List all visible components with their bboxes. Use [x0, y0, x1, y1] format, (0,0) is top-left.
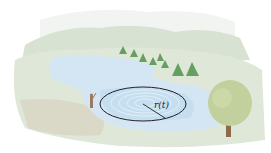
lake-illustration: r(t): [0, 0, 271, 153]
lake-scene: r(t): [0, 0, 271, 153]
radius-label: r(t): [154, 100, 169, 110]
